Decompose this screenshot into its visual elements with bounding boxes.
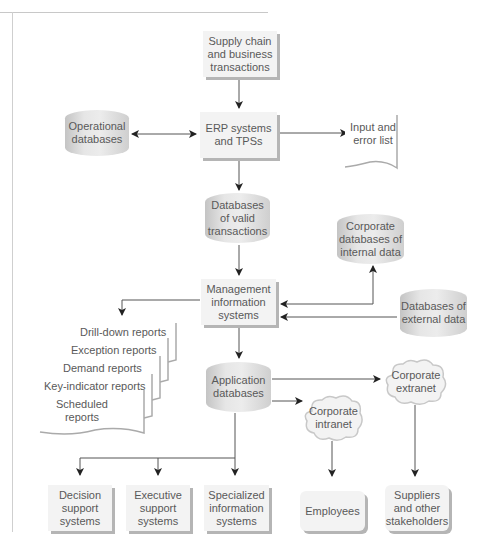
node-decision-support-systems: Decision support systems [48,485,112,531]
node-valid-transactions-db: Databases of valid transactions [205,193,270,243]
report-exception: Exception reports [71,344,157,356]
node-employees: Employees [300,491,365,531]
node-supply-chain: Supply chain and business transactions [203,31,277,77]
node-external-databases: Databases of external data [400,289,467,337]
report-scheduled: Scheduled reports [56,398,108,424]
report-drill-down: Drill-down reports [80,326,166,338]
node-specialized-information-systems: Specialized information systems [204,485,269,531]
node-input-error-list: Input and error list [350,121,396,147]
node-application-databases: Application databases [206,362,271,412]
node-suppliers-stakeholders: Suppliers and other stakeholders [385,485,449,531]
node-management-information-systems: Management information systems [201,279,276,325]
node-corporate-intranet: Corporate intranet [302,393,365,443]
node-corporate-internal-db: Corporate databases of internal data [337,214,404,264]
node-erp-systems: ERP systems and TPSs [200,112,277,158]
report-key-indicator: Key-indicator reports [44,380,146,392]
connector-lines [0,0,481,554]
node-corporate-extranet: Corporate extranet [383,357,449,407]
report-demand: Demand reports [63,362,142,374]
node-operational-databases: Operational databases [65,110,129,156]
node-executive-support-systems: Executive support systems [126,485,190,531]
